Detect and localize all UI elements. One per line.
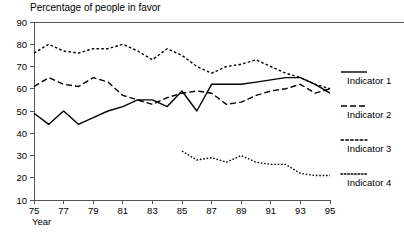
y-tick-label: 60 — [16, 83, 27, 94]
legend-item-label: Indicator 1 — [347, 75, 391, 86]
x-tick-label: 75 — [29, 205, 40, 216]
x-axis-tick-group: 7577798183858789919395 — [29, 200, 336, 216]
legend-item-label: Indicator 3 — [347, 143, 391, 154]
x-tick-label: 81 — [118, 205, 129, 216]
y-tick-label: 10 — [16, 195, 27, 206]
x-tick-label: 83 — [147, 205, 158, 216]
legend-item-label: Indicator 2 — [347, 109, 391, 120]
y-tick-label: 50 — [16, 106, 27, 117]
x-axis-label: Year — [32, 216, 51, 227]
y-tick-label: 80 — [16, 39, 27, 50]
x-tick-label: 79 — [88, 205, 99, 216]
x-tick-label: 89 — [236, 205, 247, 216]
y-axis-tick-group: 102030405060708090 — [16, 17, 34, 206]
chart-title: Percentage of people in favor — [30, 2, 161, 13]
line-chart-figure: Percentage of people in favor 1020304050… — [0, 0, 404, 235]
chart-legend: Indicator 1Indicator 2Indicator 3Indicat… — [341, 72, 391, 188]
y-tick-label: 20 — [16, 172, 27, 183]
chart-canvas: Percentage of people in favor 1020304050… — [0, 0, 404, 235]
y-tick-label: 30 — [16, 150, 27, 161]
y-tick-label: 40 — [16, 128, 27, 139]
x-tick-label: 91 — [266, 205, 277, 216]
series-line — [34, 78, 330, 125]
x-tick-label: 93 — [295, 205, 306, 216]
x-tick-label: 85 — [177, 205, 188, 216]
series-line — [34, 44, 330, 89]
y-tick-label: 70 — [16, 61, 27, 72]
legend-item-label: Indicator 4 — [347, 177, 391, 188]
x-tick-label: 87 — [206, 205, 217, 216]
series-line — [182, 151, 330, 175]
y-tick-label: 90 — [16, 17, 27, 28]
x-tick-label: 95 — [325, 205, 336, 216]
series-group — [34, 44, 330, 175]
x-tick-label: 77 — [58, 205, 69, 216]
